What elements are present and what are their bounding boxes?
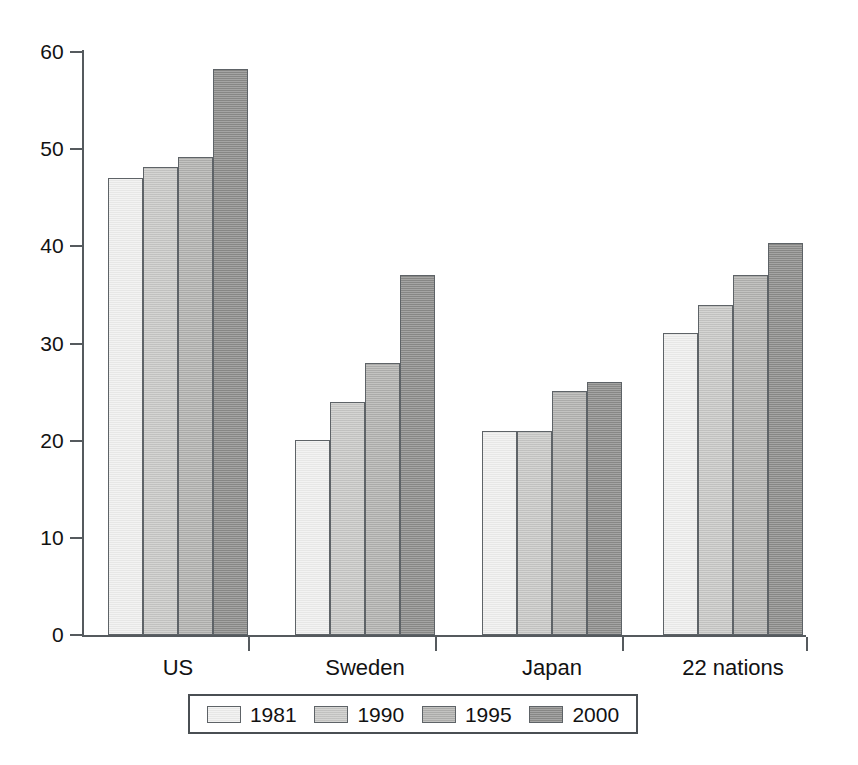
x-axis-category-label: 22 nations bbox=[623, 655, 843, 681]
y-axis-tick bbox=[70, 537, 83, 539]
y-axis-tick-label: 40 bbox=[12, 235, 64, 256]
y-axis-tick-label-text: 10 bbox=[18, 527, 64, 548]
bar bbox=[178, 157, 213, 635]
y-axis-tick-label-text: 0 bbox=[18, 624, 64, 645]
legend-item-label: 1995 bbox=[465, 704, 512, 725]
y-axis-tick-label-text: 30 bbox=[18, 333, 64, 354]
y-axis-tick bbox=[70, 148, 83, 150]
x-axis-tick bbox=[622, 637, 624, 651]
y-axis-tick-label: 0 bbox=[12, 624, 64, 645]
legend-item-label: 2000 bbox=[572, 704, 619, 725]
bar bbox=[517, 431, 552, 635]
y-axis-tick-label-text: 40 bbox=[18, 235, 64, 256]
bar bbox=[698, 305, 733, 635]
chart-legend: 1981 1990 1995 2000 bbox=[188, 694, 638, 734]
legend-swatch-icon bbox=[207, 706, 241, 723]
legend-item-label: 1981 bbox=[250, 704, 297, 725]
y-axis-tick bbox=[70, 634, 83, 636]
legend-item: 1990 bbox=[314, 704, 404, 725]
bar-chart: 0102030405060 USSwedenJapan22 nations 19… bbox=[0, 0, 858, 765]
legend-swatch-icon bbox=[529, 706, 563, 723]
bar bbox=[587, 382, 622, 635]
x-axis-tick bbox=[435, 637, 437, 651]
bar bbox=[663, 333, 698, 635]
y-axis-tick-label: 10 bbox=[12, 527, 64, 548]
x-axis-tick bbox=[248, 637, 250, 651]
y-axis-tick-label: 60 bbox=[12, 41, 64, 62]
bar bbox=[552, 391, 587, 635]
bar bbox=[108, 178, 143, 635]
bar bbox=[365, 363, 400, 635]
bar bbox=[143, 167, 178, 635]
legend-item: 2000 bbox=[529, 704, 619, 725]
y-axis-tick bbox=[70, 51, 83, 53]
legend-item: 1995 bbox=[422, 704, 512, 725]
y-axis-tick bbox=[70, 245, 83, 247]
plot-area: 0102030405060 USSwedenJapan22 nations bbox=[0, 0, 858, 765]
y-axis-tick-label-text: 20 bbox=[18, 430, 64, 451]
y-axis-tick-label: 20 bbox=[12, 430, 64, 451]
bar bbox=[400, 275, 435, 635]
y-axis-tick-label-text: 60 bbox=[18, 41, 64, 62]
bar bbox=[733, 275, 768, 635]
bar bbox=[482, 431, 517, 635]
legend-swatch-icon bbox=[422, 706, 456, 723]
y-axis-tick-label: 30 bbox=[12, 333, 64, 354]
bar bbox=[768, 243, 803, 635]
x-axis-tick bbox=[806, 637, 808, 651]
bar bbox=[295, 440, 330, 635]
bar bbox=[330, 402, 365, 635]
y-axis-tick-label-text: 50 bbox=[18, 138, 64, 159]
x-axis-line bbox=[82, 635, 806, 637]
legend-item-label: 1990 bbox=[357, 704, 404, 725]
legend-swatch-icon bbox=[314, 706, 348, 723]
legend-item: 1981 bbox=[207, 704, 297, 725]
bar bbox=[213, 69, 248, 635]
y-axis-tick bbox=[70, 343, 83, 345]
y-axis-tick-label: 50 bbox=[12, 138, 64, 159]
y-axis-tick bbox=[70, 440, 83, 442]
